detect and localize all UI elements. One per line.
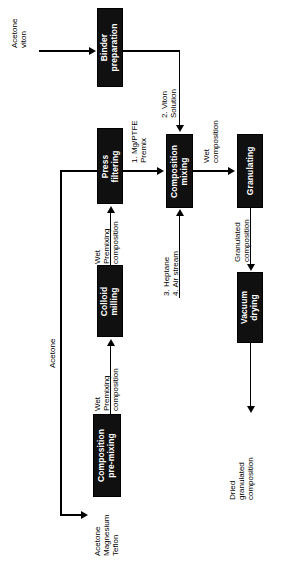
edge-acetone-recycle-vertical: [60, 170, 62, 516]
edge-acetone-viton-to-binder: [39, 50, 90, 52]
edge-acetone-recycle-top: [60, 170, 98, 172]
edge-label-wet-premixing-composition-bottom: Wet Premixing composition: [93, 368, 121, 411]
edge-label-acetone-viton: Acetone viton: [10, 19, 28, 48]
node-binder-preparation: Binder preparation: [97, 8, 123, 87]
edge-vacuum-drying-output: [250, 343, 252, 408]
edge-label-viton-solution: 2. Viton Solution: [160, 89, 178, 118]
node-composition-pre-mixing-label: Composition pre-mixing: [98, 429, 117, 482]
edge-label-mg-ptfe-premix: 1. Mg/PTFE Premix: [130, 120, 148, 163]
edge-press-filtering-to-mixing: [123, 170, 158, 172]
arrowhead-vacuum-drying-output: [247, 406, 255, 413]
arrowhead-pre-mixing-to-colloid-milling: [107, 339, 115, 346]
node-composition-mixing: Composition mixing: [166, 134, 193, 208]
node-press-filtering: Press filtering: [97, 128, 123, 204]
node-composition-mixing-label: Composition mixing: [170, 144, 189, 197]
arrowhead-heptane-air-to-mixing: [176, 209, 184, 216]
edge-label-wet-composition: Wet composition: [202, 120, 220, 163]
node-colloid-milling: Colloid milling: [97, 265, 123, 337]
node-composition-pre-mixing: Composition pre-mixing: [93, 414, 121, 497]
edge-label-acetone-recycle: Acetone: [48, 339, 57, 368]
node-granulating: Granulating: [237, 134, 263, 208]
edge-acetone-recycle-bottom: [60, 514, 82, 516]
edge-label-granulated-composition: Granulated composition: [233, 219, 251, 262]
arrowhead-acetone-recycle-to-feed: [81, 511, 88, 519]
node-vacuum-drying-label: Vacuum drying: [241, 291, 260, 324]
node-binder-preparation-label: Binder preparation: [101, 24, 120, 72]
edge-label-acetone-magnesium-teflon: Acetone Magnesium Teflon: [93, 515, 121, 556]
edge-viton-solution-down: [179, 50, 181, 126]
flowchart-canvas: Binder preparation Press filtering Compo…: [0, 0, 281, 562]
node-vacuum-drying: Vacuum drying: [237, 272, 263, 343]
edge-label-dried-granulated-composition: Dried granulated composition: [228, 457, 256, 500]
arrowhead-granulating-to-vacuum-drying: [247, 264, 255, 271]
arrowhead-press-filtering-to-mixing: [157, 167, 164, 175]
node-granulating-label: Granulating: [245, 147, 255, 196]
edge-label-heptane-air-stream: 3. Heptane 4. Air stream: [162, 251, 180, 296]
arrowhead-mixing-to-granulating: [228, 167, 235, 175]
edge-mixing-to-granulating: [193, 170, 229, 172]
arrowhead-acetone-viton-to-binder: [89, 47, 96, 55]
edge-binder-to-viton-solution: [123, 50, 180, 52]
node-colloid-milling-label: Colloid milling: [101, 286, 120, 316]
arrowhead-colloid-milling-to-press-filtering: [107, 206, 115, 213]
edge-label-wet-premixing-composition-top: Wet Premixing composition: [93, 221, 121, 264]
node-press-filtering-label: Press filtering: [101, 150, 120, 182]
arrowhead-viton-solution-into-mixing: [176, 125, 184, 132]
